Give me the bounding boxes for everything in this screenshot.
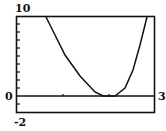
function-curve (46, 17, 147, 96)
plot-area (0, 0, 166, 131)
y-axis-ticks (17, 24, 20, 104)
